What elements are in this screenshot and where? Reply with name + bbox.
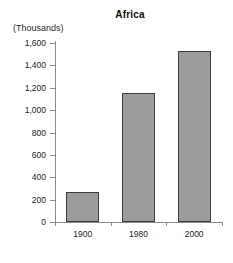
x-axis-tick-label: 2000 — [166, 229, 222, 239]
y-axis-tick — [50, 110, 55, 111]
y-axis-tick — [50, 177, 55, 178]
y-axis-tick-label: 400 — [12, 172, 46, 182]
x-axis-tick — [111, 222, 112, 226]
x-axis-tick-label: 1900 — [55, 229, 111, 239]
y-axis-line — [55, 41, 56, 223]
y-axis-units-label: (Thousands) — [13, 23, 64, 33]
x-axis-tick — [222, 222, 223, 226]
y-axis-tick-label: 1,600 — [12, 38, 46, 48]
y-axis-tick-label: 0 — [12, 217, 46, 227]
y-axis-tick-label: 1,000 — [12, 105, 46, 115]
y-axis-tick — [50, 133, 55, 134]
bar-2000 — [178, 51, 211, 222]
y-axis-tick-label: 1,200 — [12, 83, 46, 93]
y-axis-tick-label: 1,400 — [12, 60, 46, 70]
bar-1980 — [122, 93, 155, 222]
bar-chart: Africa (Thousands) 02004006008001,0001,2… — [0, 0, 233, 263]
y-axis-tick — [50, 43, 55, 44]
y-axis-tick — [50, 65, 55, 66]
y-axis-tick-label: 600 — [12, 150, 46, 160]
bar-1900 — [66, 192, 99, 222]
x-axis-tick-label: 1980 — [111, 229, 167, 239]
x-axis-tick — [55, 222, 56, 226]
y-axis-tick — [50, 155, 55, 156]
y-axis-tick-label: 800 — [12, 128, 46, 138]
chart-title: Africa — [70, 9, 190, 20]
y-axis-tick — [50, 88, 55, 89]
x-axis-tick — [166, 222, 167, 226]
y-axis-tick-label: 200 — [12, 195, 46, 205]
x-axis-line — [50, 222, 223, 223]
y-axis-tick — [50, 200, 55, 201]
